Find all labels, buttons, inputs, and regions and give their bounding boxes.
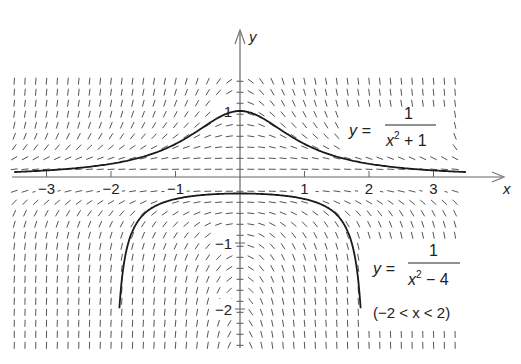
slope-segment [23,144,27,150]
slope-segment [56,221,58,228]
slope-segment [409,190,416,192]
slope-segment [269,147,276,149]
slope-segment [444,100,445,107]
slope-segment [183,201,190,203]
slope-segment [323,158,330,160]
slope-segment [313,222,317,227]
slope-segment [78,122,80,129]
slope-segment [174,100,177,107]
slope-segment [290,158,297,159]
slope-segment [315,298,316,305]
slope-segment [109,133,113,139]
slope-segment [377,157,384,159]
slope-segment [326,287,327,294]
slope-segment [304,309,305,316]
slope-segment [143,78,144,85]
slope-segment [336,78,337,85]
slope-segment [78,89,79,96]
slope-segment [293,276,295,283]
slope-segment [130,134,134,140]
slope-segment [259,244,265,248]
slope-segment [164,243,167,250]
slope-segment [270,233,275,237]
slope-segment [56,210,60,216]
slope-segment [11,190,18,192]
slope-segment [358,100,359,107]
slope-segment [304,342,305,349]
slope-segment [110,243,112,250]
slope-segment [46,122,48,129]
slope-segment [24,210,27,216]
slope-segment [14,100,15,107]
slope-segment [25,243,26,250]
slope-segment [218,331,220,338]
slope-segment [173,123,177,129]
slope-segment [99,133,103,139]
slope-segment [154,331,155,338]
slope-segment [248,91,254,95]
slope-segment [164,287,165,294]
slope-segment [12,200,17,205]
slope-segment [344,191,351,192]
slope-segment [345,211,350,216]
slope-segment [326,309,327,316]
slope-segment [366,201,372,205]
slope-segment [14,89,15,96]
slope-segment [153,111,156,118]
slope-segment [313,211,319,215]
slope-segment [162,134,167,139]
slope-segment [271,89,275,95]
slope-segment [399,200,405,204]
slope-segment [366,157,373,159]
slope-segment [154,320,155,327]
slope-segment [325,254,327,261]
slope-segment [337,298,338,305]
upper-eq-lhs: y = [348,122,371,139]
slope-segment [272,309,274,316]
slope-segment [247,234,254,236]
slope-segment [433,232,434,239]
slope-segment [283,309,284,316]
slope-segment [248,277,253,281]
slope-segment [132,276,133,283]
slope-segment [100,276,101,283]
slope-segment [390,100,391,107]
slope-segment [186,320,187,327]
slope-segment [293,331,294,338]
slope-segment [261,331,263,338]
slope-segment [65,157,71,160]
slope-segment [153,78,154,85]
slope-segment [204,212,211,214]
slope-segment [141,221,145,227]
slope-segment [143,287,144,294]
slope-segment [153,100,155,107]
slope-segment [142,111,144,118]
slope-segment [355,157,362,159]
slope-segment [35,111,36,118]
slope-segment [111,265,112,272]
slope-segment [79,287,80,294]
slope-segment [89,254,90,261]
slope-segment [455,100,456,107]
slope-segment [336,276,337,283]
slope-segment [24,232,25,239]
slope-segment [293,298,294,305]
slope-segment [87,200,93,204]
slope-segment [280,202,287,203]
slope-segment [25,265,26,272]
slope-segment [325,243,327,250]
slope-segment [420,157,426,160]
slope-segment [441,157,447,160]
slope-segment [325,89,327,96]
slope-segment [143,309,144,316]
slope-segment [54,157,60,160]
slope-segment [197,320,198,327]
slope-segment [132,78,133,85]
slope-segment [258,147,265,148]
slope-segment [452,157,458,160]
slope-segment [455,111,456,118]
slope-segment [154,309,155,316]
slope-segment [100,100,101,107]
slope-segment [44,200,49,205]
slope-segment [269,212,276,214]
